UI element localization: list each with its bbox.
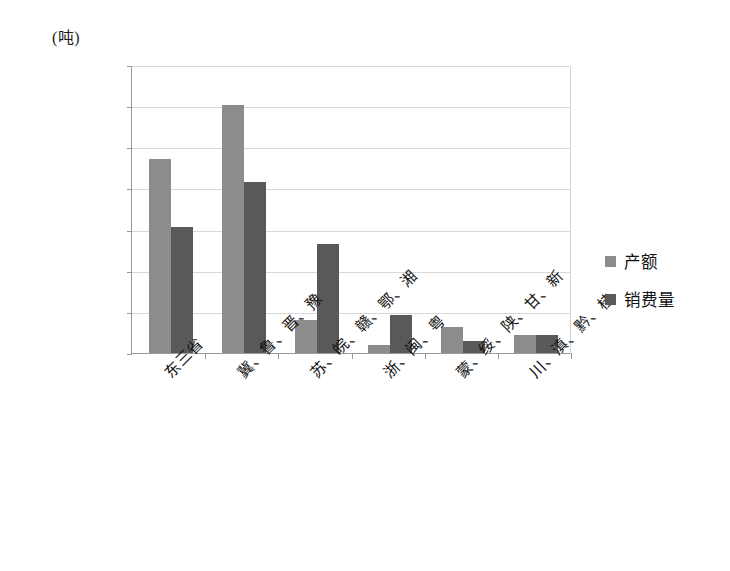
legend-label: 产额 [624,249,658,273]
legend-label: 销费量 [624,287,675,311]
x-axis-label-3: 浙、闽、粤 [377,309,449,381]
bar-chart: (吨) 140000001200000010000000800000060000… [0,0,730,571]
legend-item[interactable]: 销费量 [605,288,725,310]
legend-swatch-icon [605,256,616,267]
legend-swatch-icon [605,294,616,305]
chart-legend: 产额销费量 [605,250,725,326]
x-axis-label-0: 东三省 [158,332,207,381]
legend-item[interactable]: 产额 [605,250,725,272]
